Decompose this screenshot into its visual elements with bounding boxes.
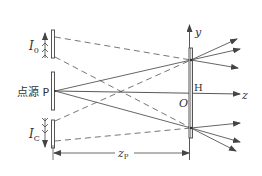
beam-arrow-bottom — [42, 118, 48, 147]
beam-top-to-upper — [55, 37, 191, 60]
bottom-grating — [52, 120, 55, 148]
lower-point — [190, 127, 193, 130]
label-y-axis: y — [194, 26, 202, 39]
label-zp: zP — [117, 147, 129, 161]
beam-arrow-top — [42, 33, 48, 58]
label-source-p: 点源 P — [17, 85, 49, 99]
ray-p-lower — [55, 91, 191, 128]
ray-p-upper — [55, 60, 191, 91]
label-ic: IC — [28, 127, 40, 143]
source-plate — [52, 72, 55, 110]
top-grating — [52, 30, 55, 58]
beam-bottom-to-upper — [55, 60, 191, 121]
label-z-axis: z — [241, 89, 248, 102]
label-origin: O — [179, 97, 188, 110]
dashed-beams — [55, 37, 191, 141]
upper-point — [190, 59, 193, 62]
label-i0: I0 — [28, 39, 39, 55]
point-p — [54, 90, 56, 92]
holography-diagram: I0 IC 点源 P y z O H zP — [0, 0, 262, 176]
outgoing-rays-lower — [191, 123, 240, 151]
beam-bottom-to-lower — [55, 128, 191, 141]
label-hologram: H — [194, 82, 203, 93]
outgoing-rays-upper — [191, 39, 240, 68]
z-axis — [55, 91, 240, 94]
